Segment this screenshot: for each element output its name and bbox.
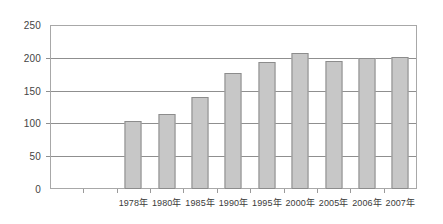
bars-layer	[50, 25, 417, 189]
bar-chart: 050100150200250 1978年1980年1985年1990年1995…	[0, 0, 443, 224]
x-tick-mark	[250, 189, 251, 193]
x-tick-label: 1978年	[119, 196, 149, 209]
bar[interactable]	[125, 121, 142, 189]
x-tick-mark	[384, 189, 385, 193]
bar[interactable]	[358, 58, 375, 189]
x-tick-label: 2005年	[319, 196, 349, 209]
y-tick-label: 100	[24, 118, 41, 129]
y-tick-label: 250	[24, 20, 41, 31]
bar[interactable]	[158, 114, 175, 189]
bar-slot	[217, 25, 250, 189]
x-tick-label: 1995年	[252, 196, 282, 209]
x-tick-mark	[117, 189, 118, 193]
bar-slot	[250, 25, 283, 189]
x-tick-mark	[150, 189, 151, 193]
y-tick-label: 50	[29, 151, 41, 162]
bar-slot	[150, 25, 183, 189]
bar[interactable]	[192, 97, 209, 189]
bar[interactable]	[325, 61, 342, 189]
y-tick-label: 0	[35, 184, 41, 195]
y-axis: 050100150200250	[0, 25, 46, 189]
bar[interactable]	[392, 57, 409, 189]
x-tick-label: 2006年	[352, 196, 382, 209]
bar-slot	[350, 25, 383, 189]
x-tick-label: 1990年	[219, 196, 249, 209]
bar-slot	[384, 25, 417, 189]
x-tick-label: 2000年	[285, 196, 315, 209]
bar[interactable]	[225, 73, 242, 189]
x-tick-mark	[217, 189, 218, 193]
x-tick-mark	[284, 189, 285, 193]
x-tick-mark	[83, 189, 84, 193]
y-tick-label: 150	[24, 85, 41, 96]
x-axis: 1978年1980年1985年1990年1995年2000年2005年2006年…	[50, 189, 417, 224]
x-tick-label: 1980年	[152, 196, 182, 209]
bar[interactable]	[258, 62, 275, 189]
bar-slot	[284, 25, 317, 189]
x-tick-label: 1985年	[185, 196, 215, 209]
bar-slot	[317, 25, 350, 189]
x-tick-label: 2007年	[386, 196, 416, 209]
y-tick-label: 200	[24, 52, 41, 63]
x-tick-mark	[183, 189, 184, 193]
bar-slot	[183, 25, 216, 189]
x-tick-mark	[350, 189, 351, 193]
bar-slot	[117, 25, 150, 189]
x-tick-mark	[317, 189, 318, 193]
bar[interactable]	[292, 53, 309, 189]
